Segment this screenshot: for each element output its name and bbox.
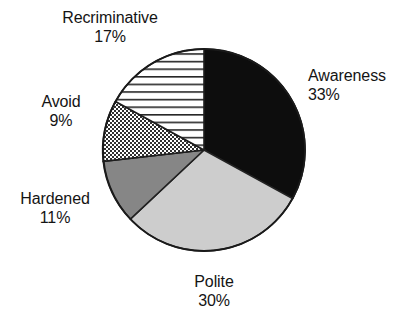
pie-label-awareness: Awareness 33%	[308, 66, 412, 104]
pie-chart: Recriminative 17% Awareness 33% Avoid 9%…	[0, 0, 412, 324]
pie-label-polite: Polite 30%	[162, 272, 266, 310]
pie-label-recriminative-value: 17%	[30, 27, 190, 46]
pie-label-polite-name: Polite	[162, 272, 266, 291]
pie-label-polite-value: 30%	[162, 291, 266, 310]
pie-label-hardened: Hardened 11%	[2, 189, 108, 227]
pie-label-avoid: Avoid 9%	[18, 92, 104, 130]
pie-label-hardened-value: 11%	[2, 208, 108, 227]
pie-label-recriminative-name: Recriminative	[30, 8, 190, 27]
pie-label-awareness-value: 33%	[308, 85, 412, 104]
pie-label-avoid-name: Avoid	[18, 92, 104, 111]
pie-label-hardened-name: Hardened	[2, 189, 108, 208]
pie-label-awareness-name: Awareness	[308, 66, 412, 85]
pie-label-avoid-value: 9%	[18, 111, 104, 130]
pie-label-recriminative: Recriminative 17%	[30, 8, 190, 46]
